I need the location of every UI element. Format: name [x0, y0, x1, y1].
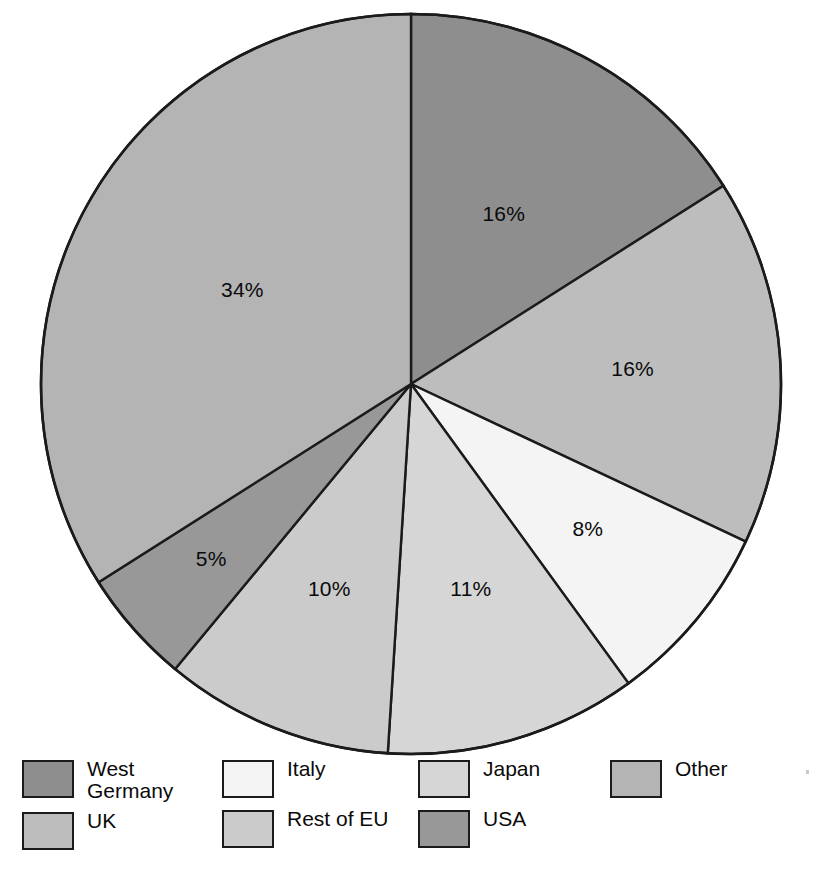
pie-slice-label-other: 34% — [221, 278, 264, 301]
legend-swatch-rest-of-eu — [222, 810, 274, 848]
legend-label-japan: Japan — [483, 758, 540, 780]
legend-swatch-italy — [222, 760, 274, 798]
legend-label-italy: Italy — [287, 758, 326, 780]
legend-item-rest-of-eu: Rest of EU — [222, 808, 402, 850]
legend-swatch-usa — [418, 810, 470, 848]
chart-legend: West GermanyUK ItalyRest of EU JapanUSA … — [0, 758, 817, 874]
pie-slice-label-japan: 11% — [450, 577, 491, 600]
legend-item-japan: Japan — [418, 758, 588, 800]
legend-swatch-uk — [22, 812, 74, 850]
pie-slice-label-rest-of-eu: 10% — [308, 577, 351, 600]
legend-swatch-japan — [418, 760, 470, 798]
legend-column-1: ItalyRest of EU — [222, 758, 402, 858]
pie-slice-label-usa: 5% — [196, 547, 227, 570]
legend-label-uk: UK — [87, 810, 116, 832]
legend-item-usa: USA — [418, 808, 588, 850]
legend-column-3: Other — [610, 758, 800, 808]
legend-item-italy: Italy — [222, 758, 402, 800]
legend-swatch-other — [610, 760, 662, 798]
legend-label-west-germany: West Germany — [87, 758, 173, 802]
legend-label-other: Other — [675, 758, 728, 780]
legend-column-2: JapanUSA — [418, 758, 588, 858]
pie-slices-group — [41, 14, 781, 754]
scan-artifact-speck — [806, 770, 809, 774]
pie-slice-label-west-germany: 16% — [482, 202, 525, 225]
legend-swatch-west-germany — [22, 760, 74, 798]
legend-item-other: Other — [610, 758, 800, 800]
legend-item-west-germany: West Germany — [22, 758, 192, 802]
pie-slice-label-uk: 16% — [611, 357, 654, 380]
pie-svg: 16%16%8%11%10%5%34% — [0, 0, 817, 770]
legend-column-0: West GermanyUK — [22, 758, 192, 860]
pie-slice-label-italy: 8% — [572, 517, 603, 540]
legend-item-uk: UK — [22, 810, 192, 852]
pie-chart-figure: 16%16%8%11%10%5%34% West GermanyUK Italy… — [0, 0, 817, 874]
legend-label-rest-of-eu: Rest of EU — [287, 808, 389, 830]
legend-label-usa: USA — [483, 808, 526, 830]
pie-plot-area: 16%16%8%11%10%5%34% — [0, 0, 817, 770]
